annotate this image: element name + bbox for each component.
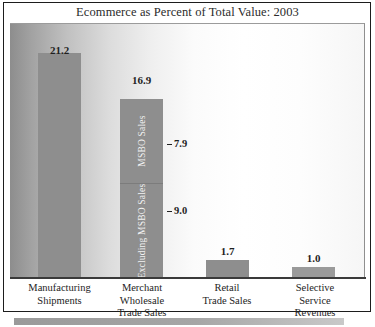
chart-title: Ecommerce as Percent of Total Value: 200…: [0, 5, 375, 20]
bar-segment-excluding-msbo-sales: Excluding MSBO Sales: [120, 183, 163, 278]
x-axis-line: [10, 277, 366, 279]
bar-retail-trade-sales: [206, 260, 249, 278]
category-label-merchant-wholesale-trade-sales: Merchant Wholesale Trade Sales: [98, 282, 186, 320]
category-label-selective-service-revenues: Selective Service Revenues: [270, 282, 360, 320]
value-label-merchant-wholesale-trade-sales: 16.9: [120, 74, 163, 86]
category-label-retail-trade-sales: Retail Trade Sales: [182, 282, 272, 307]
bar-segment-label-msbo-sales: MSBO Sales: [136, 115, 147, 166]
tick-mark-icon: [167, 144, 172, 145]
chart-figure: Ecommerce as Percent of Total Value: 200…: [0, 0, 375, 327]
bar-segment-msbo-sales: MSBO Sales: [120, 99, 163, 183]
bar-manufacturing-shipments: [38, 53, 81, 278]
bar-segment-label-excluding-msbo-sales: Excluding MSBO Sales: [136, 184, 147, 279]
value-label-manufacturing-shipments: 21.2: [38, 44, 81, 56]
segment-value-msbo-sales: 7.9: [167, 138, 187, 149]
tick-mark-icon: [167, 211, 172, 212]
segment-value-excluding-msbo-sales: 9.0: [167, 205, 187, 216]
bar-merchant-wholesale-trade-sales: MSBO Sales Excluding MSBO Sales: [120, 99, 163, 278]
plot-area: MSBO Sales Excluding MSBO Sales 7.9 9.0: [10, 23, 365, 278]
bottom-accent-strip: [14, 318, 344, 325]
value-label-selective-service-revenues: 1.0: [292, 252, 335, 264]
category-label-manufacturing-shipments: Manufacturing Shipments: [12, 282, 107, 307]
value-label-retail-trade-sales: 1.7: [206, 245, 249, 257]
